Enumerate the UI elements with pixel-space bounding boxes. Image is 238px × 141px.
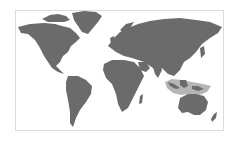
south-america [66,76,92,127]
new-zealand [211,112,217,122]
arctic-islands [42,14,70,22]
greenland [72,11,102,34]
india [152,64,162,78]
australia [178,94,208,115]
japan [200,46,205,58]
madagascar [139,94,143,104]
highlight-region [165,79,211,95]
world-map [0,0,238,141]
north-america [18,23,80,74]
africa [103,60,144,112]
